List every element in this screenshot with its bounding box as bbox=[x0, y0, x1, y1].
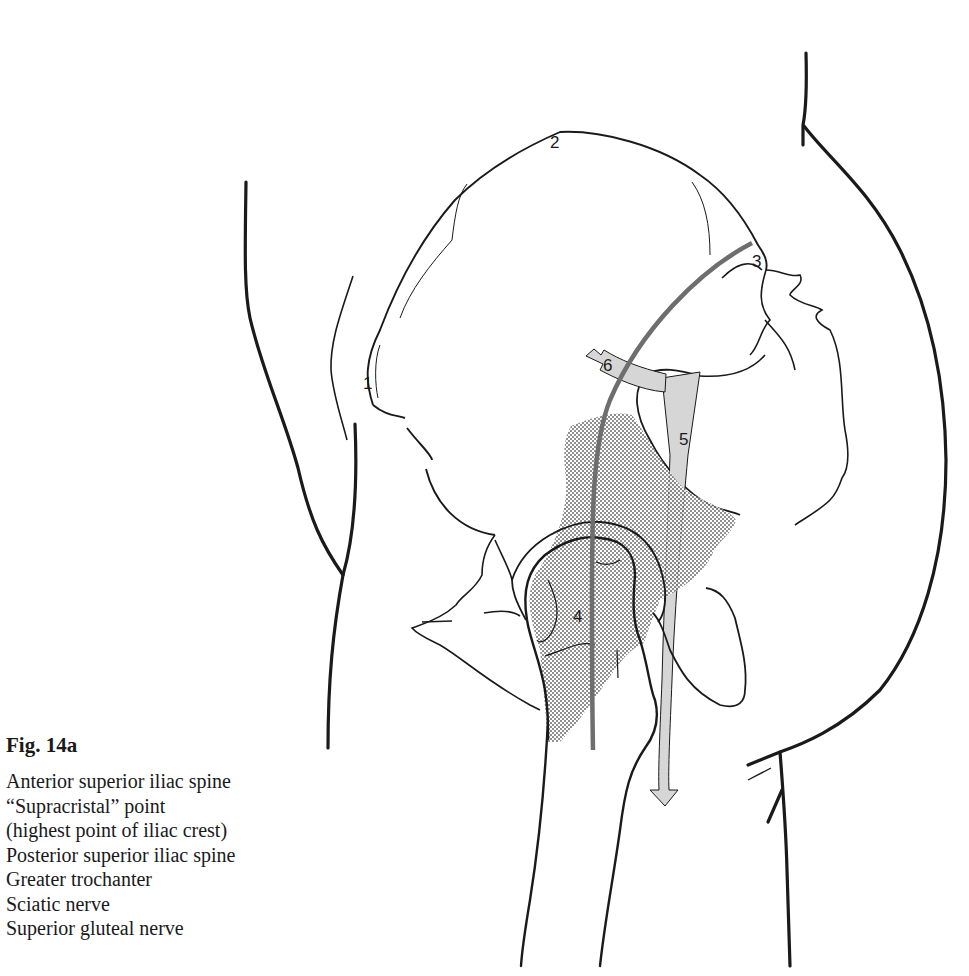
body-outline-posterior bbox=[748, 53, 946, 966]
legend-item: “Supracristal” point bbox=[6, 794, 326, 819]
stippled-zone bbox=[530, 413, 736, 742]
label-1: 1 bbox=[363, 374, 372, 393]
legend-item: Greater trochanter bbox=[6, 867, 326, 892]
label-3: 3 bbox=[752, 252, 761, 271]
figure-title: Fig. 14a bbox=[6, 733, 326, 757]
figure-legend: Anterior superior iliac spine “Supracris… bbox=[6, 769, 326, 941]
legend-item: Anterior superior iliac spine bbox=[6, 769, 326, 794]
label-2: 2 bbox=[550, 133, 559, 152]
figure-caption: Fig. 14a Anterior superior iliac spine “… bbox=[6, 733, 326, 941]
legend-item: (highest point of iliac crest) bbox=[6, 818, 326, 843]
sacrum bbox=[700, 264, 848, 525]
label-4: 4 bbox=[573, 607, 582, 626]
legend-item: Superior gluteal nerve bbox=[6, 916, 326, 941]
thigh-front-contour bbox=[331, 276, 353, 440]
thigh-outline bbox=[521, 700, 657, 966]
label-5: 5 bbox=[679, 430, 688, 449]
iliac-crest-inner-lines bbox=[376, 182, 710, 398]
legend-item: Posterior superior iliac spine bbox=[6, 843, 326, 868]
gluteal-fold-mark bbox=[748, 768, 771, 780]
label-6: 6 bbox=[603, 356, 612, 375]
legend-item: Sciatic nerve bbox=[6, 892, 326, 917]
body-outline-anterior bbox=[245, 182, 356, 748]
